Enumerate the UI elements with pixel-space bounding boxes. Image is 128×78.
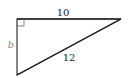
right-angle-marker-icon: [17, 19, 24, 26]
triangle-diagram: 10 b 12: [0, 0, 128, 78]
triangle-svg: 10 b 12: [0, 0, 128, 78]
top-side-label: 10: [57, 7, 70, 18]
hypotenuse-edge: [17, 19, 121, 75]
left-side-label: b: [8, 39, 14, 50]
hypotenuse-label: 12: [63, 52, 76, 63]
